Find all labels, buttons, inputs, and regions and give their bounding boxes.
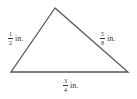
- bottom-side-label: 34 in.: [63, 78, 78, 93]
- left-side-label: 12 in.: [8, 31, 23, 46]
- denominator: 4: [64, 87, 67, 93]
- unit: in.: [107, 35, 115, 43]
- right-side-label: 58 in.: [100, 31, 115, 46]
- denominator: 8: [101, 40, 104, 46]
- numerator: 3: [64, 78, 67, 84]
- denominator: 2: [9, 40, 12, 46]
- numerator: 1: [9, 31, 12, 37]
- numerator: 5: [101, 31, 104, 37]
- unit: in.: [15, 35, 23, 43]
- unit: in.: [70, 82, 78, 90]
